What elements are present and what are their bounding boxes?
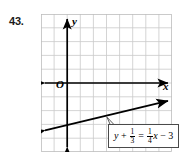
equation-minus-operator: − xyxy=(160,131,166,141)
equation-plus-operator: + xyxy=(121,131,127,141)
problem-number: 43. xyxy=(9,15,24,27)
origin-label: O xyxy=(56,79,64,90)
equation-lhs-fraction: 1 3 xyxy=(130,128,136,145)
equation-rhs-variable: x xyxy=(153,131,157,141)
equation-constant: 3 xyxy=(168,131,173,141)
x-axis-label: x xyxy=(163,81,169,92)
equation-rhs-denominator: 4 xyxy=(147,136,153,145)
equation-lhs-denominator: 3 xyxy=(130,136,136,145)
equation-callout-box: y + 1 3 = 1 4 x − 3 xyxy=(108,124,179,148)
equation-lhs-variable: y xyxy=(114,131,118,141)
graph-figure: 43. xyxy=(0,0,193,166)
equation-rhs-fraction: 1 4 xyxy=(147,128,153,145)
equation-rhs-numerator: 1 xyxy=(147,128,153,136)
equation-equals-operator: = xyxy=(138,131,144,141)
equation-expression: y + 1 3 = 1 4 x − 3 xyxy=(114,128,173,145)
equation-lhs-numerator: 1 xyxy=(130,128,136,136)
y-axis-label: y xyxy=(72,16,77,27)
